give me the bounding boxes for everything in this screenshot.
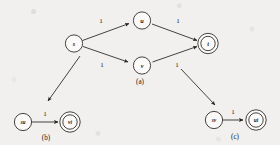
caption-a: (a) (136, 78, 145, 86)
caption-c: (c) (231, 133, 240, 141)
node-ut[interactable]: ut (246, 110, 266, 130)
connector-a-to-c (181, 69, 215, 105)
node-v-label: v (141, 62, 144, 69)
edge-v-to-t (153, 47, 198, 63)
connector-a-to-b (48, 56, 80, 101)
graph-c: 1 sv ut (c) (205, 108, 266, 141)
edge-label-s-u: 1 (99, 17, 103, 25)
node-s[interactable]: s (65, 35, 82, 52)
edge-label-u-t: 1 (176, 17, 180, 25)
edge-label-s-v: 1 (100, 61, 104, 69)
node-sv[interactable]: sv (205, 111, 222, 128)
node-t[interactable]: t (198, 33, 218, 53)
node-sv-label: sv (211, 117, 217, 123)
node-u-label: u (140, 17, 144, 24)
graph-b: 1 su vt (b) (14, 110, 80, 142)
edge-label-su-vt: 1 (43, 110, 47, 118)
edge-s-to-u (83, 24, 130, 41)
automata-figure: 1 1 1 1 s u v t (a) 1 (0, 0, 280, 145)
node-s-label: s (72, 40, 76, 47)
node-vt-label: vt (68, 119, 72, 125)
edge-label-v-t: 1 (175, 61, 179, 69)
caption-b: (b) (42, 134, 51, 142)
node-vt[interactable]: vt (60, 112, 80, 132)
edge-s-to-v (83, 47, 128, 63)
node-ut-label: ut (254, 117, 259, 123)
node-v[interactable]: v (133, 57, 150, 74)
edge-u-to-t (152, 24, 197, 41)
edge-label-sv-ut: 1 (231, 108, 235, 116)
node-t-label: t (207, 40, 209, 47)
node-su[interactable]: su (14, 113, 31, 130)
node-u[interactable]: u (133, 12, 150, 29)
graph-a: 1 1 1 1 s u v t (a) (65, 12, 218, 86)
node-su-label: su (19, 119, 25, 125)
